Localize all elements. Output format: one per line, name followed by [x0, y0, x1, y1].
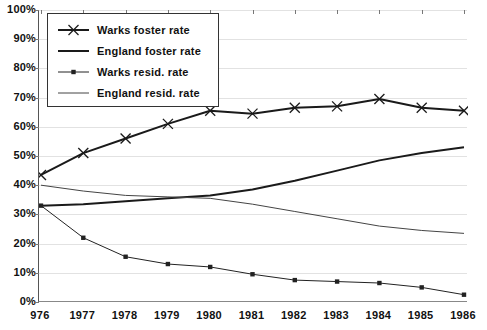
y-axis-tick-label: 10% [2, 267, 36, 278]
x-axis-tick-label: 1979 [143, 309, 191, 321]
legend-label: Warks resid. rate [97, 66, 189, 78]
data-point-marker [166, 262, 170, 266]
data-point-marker [81, 236, 85, 240]
data-point-marker [377, 281, 381, 285]
legend-swatch [57, 44, 90, 58]
y-axis-tick-label: 40% [2, 179, 36, 190]
legend-label: Warks foster rate [97, 24, 190, 36]
series-line [41, 99, 464, 175]
legend-item: England resid. rate [48, 82, 218, 103]
x-axis-tick-label: 1980 [185, 309, 233, 321]
data-point-marker [420, 285, 424, 289]
x-axis-tick-label: 1985 [397, 309, 445, 321]
legend-label: England resid. rate [97, 87, 200, 99]
series-3 [39, 203, 466, 296]
y-axis-tick-mark [35, 302, 39, 303]
legend-swatch [57, 65, 90, 79]
y-axis-tick-label: 60% [2, 121, 36, 132]
data-point-marker [250, 272, 254, 276]
y-axis-tick-label: 20% [2, 238, 36, 249]
series-2 [41, 147, 464, 205]
y-axis-tick-label: 80% [2, 62, 36, 73]
legend-item: Warks resid. rate [48, 61, 218, 82]
x-axis-tick-label: 1983 [312, 309, 360, 321]
y-axis-tick-label: 50% [2, 150, 36, 161]
x-axis-tick-label: 976 [16, 309, 64, 321]
data-point-marker [462, 293, 466, 297]
x-axis-tick-label: 1981 [228, 309, 276, 321]
y-axis-tick-label: 70% [2, 92, 36, 103]
y-axis-tick-label: 100% [2, 4, 36, 15]
y-axis-tick-label: 0% [2, 296, 36, 307]
data-point-marker [123, 255, 127, 259]
chart-legend: Warks foster rateEngland foster rateWark… [47, 13, 219, 107]
series-4 [41, 185, 464, 233]
series-line [41, 147, 464, 205]
y-axis-tick-label: 30% [2, 208, 36, 219]
legend-swatch [57, 23, 90, 37]
y-axis-tick-label: 90% [2, 33, 36, 44]
data-point-marker [39, 203, 43, 207]
series-line [41, 185, 464, 233]
x-axis-tick-label: 1986 [439, 309, 487, 321]
y-axis-labels: 100%90%80%70%60%50%40%30%20%10%0% [0, 0, 36, 330]
data-point-marker [293, 278, 297, 282]
x-axis-tick-label: 1984 [354, 309, 402, 321]
legend-item: Warks foster rate [48, 19, 218, 40]
data-point-marker [208, 265, 212, 269]
x-axis-tick-label: 1982 [270, 309, 318, 321]
data-point-marker [335, 279, 339, 283]
series-line [41, 206, 464, 295]
line-chart: 100%90%80%70%60%50%40%30%20%10%0% 976197… [0, 0, 487, 330]
legend-swatch [57, 86, 90, 100]
legend-label: England foster rate [97, 45, 201, 57]
x-axis-tick-label: 1977 [58, 309, 106, 321]
x-axis-tick-label: 1978 [101, 309, 149, 321]
legend-item: England foster rate [48, 40, 218, 61]
